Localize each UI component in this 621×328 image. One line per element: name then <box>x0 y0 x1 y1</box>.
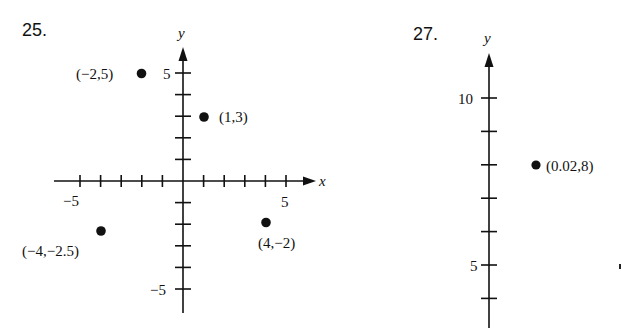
y-tick-label-5: 5 <box>470 258 478 274</box>
x-tick-label-neg5: −5 <box>63 193 79 209</box>
y-axis-label-27: y <box>482 30 491 46</box>
data-point <box>199 112 209 122</box>
point-label: (0.02,8) <box>546 158 594 175</box>
point-label: (−4,−2.5) <box>22 243 79 260</box>
graph-27 <box>481 53 497 328</box>
point-label: (1,3) <box>219 109 248 126</box>
x-axis-arrow-icon <box>303 177 316 186</box>
x-axis-label-25: x <box>318 173 326 189</box>
graph-25 <box>54 47 316 313</box>
data-point <box>261 218 271 228</box>
plots: y x −5 5 5 −5 (−2,5) (1,3) (−4,−2.5) (4,… <box>0 0 621 328</box>
x-tick-label-5: 5 <box>281 194 289 210</box>
point-label: (4,−2) <box>258 235 295 252</box>
y-axis-arrow-icon <box>179 47 188 61</box>
y-axis-arrow-icon <box>485 53 494 67</box>
data-point <box>137 69 147 79</box>
data-point <box>531 160 540 169</box>
y-axis-label-25: y <box>176 25 185 41</box>
y-tick-label-neg5: −5 <box>150 282 166 298</box>
data-point <box>96 226 106 236</box>
y-tick-label-5: 5 <box>163 66 171 82</box>
y-tick-label-10: 10 <box>458 91 473 107</box>
point-label: (−2,5) <box>76 66 113 83</box>
